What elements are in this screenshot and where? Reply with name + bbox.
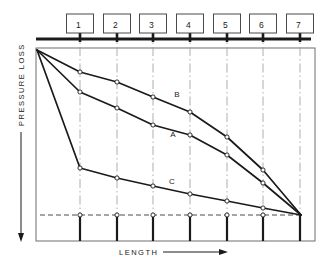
curve-C	[37, 50, 301, 215]
curve-point-markers	[78, 70, 265, 210]
curve-B-point-1	[78, 70, 82, 74]
node-label-2: 2	[113, 20, 118, 30]
curve-A-point-3	[151, 123, 155, 127]
curve-C-point-4	[188, 192, 192, 196]
curve-B-point-3	[151, 95, 155, 99]
pipe-node-1: 1	[67, 14, 94, 33]
curve-A-point-6	[261, 181, 265, 185]
curve-label-C: C	[169, 177, 175, 186]
x-axis-arrow	[163, 249, 228, 255]
node-label-5: 5	[223, 20, 228, 30]
y-axis-label: PRESSURE LOSS	[17, 43, 26, 126]
baseline-marker-3	[151, 213, 155, 217]
curve-A-point-2	[115, 106, 119, 110]
baseline-marker-6	[261, 213, 265, 217]
curve-A-point-4	[188, 133, 192, 137]
curve-C-point-3	[151, 184, 155, 188]
curve-A-point-1	[78, 90, 82, 94]
pipe-node-3: 3	[140, 14, 167, 33]
baseline-marker-2	[115, 213, 119, 217]
curve-label-B: B	[174, 90, 180, 99]
curve-B-point-4	[188, 110, 192, 114]
pipe-node-2: 2	[104, 14, 131, 33]
baseline-marker-1	[78, 213, 82, 217]
pipe-node-boxes: 1234567	[67, 14, 314, 33]
node-label-7: 7	[296, 20, 301, 30]
node-label-6: 6	[259, 20, 264, 30]
curve-C-point-6	[261, 206, 265, 210]
curve-A-point-5	[225, 153, 229, 157]
pressure-loss-curves	[37, 50, 301, 215]
riser-lines	[80, 215, 300, 241]
curve-C-point-2	[115, 176, 119, 180]
node-label-3: 3	[149, 20, 154, 30]
curve-C-point-5	[225, 199, 229, 203]
curve-B-point-2	[115, 80, 119, 84]
baseline-marker-5	[225, 213, 229, 217]
diagram-canvas: 1234567 BAC PRESSURE LOSS LENGTH	[0, 0, 330, 264]
curve-B-point-5	[225, 135, 229, 139]
pressure-loss-diagram: 1234567 BAC PRESSURE LOSS LENGTH	[0, 0, 330, 264]
curve-C-point-1	[78, 166, 82, 170]
pipe-node-6: 6	[250, 14, 277, 33]
header-pipe	[36, 33, 311, 42]
baseline-marker-4	[188, 213, 192, 217]
curve-B-point-6	[261, 168, 265, 172]
node-label-4: 4	[186, 20, 191, 30]
node-label-1: 1	[76, 20, 81, 30]
pipe-node-4: 4	[177, 14, 204, 33]
x-axis-label: LENGTH	[119, 248, 158, 257]
y-axis-arrow	[18, 132, 24, 242]
plot-frame	[36, 48, 315, 241]
curve-label-A: A	[170, 130, 176, 139]
pipe-node-7: 7	[287, 14, 314, 33]
pipe-node-5: 5	[214, 14, 241, 33]
